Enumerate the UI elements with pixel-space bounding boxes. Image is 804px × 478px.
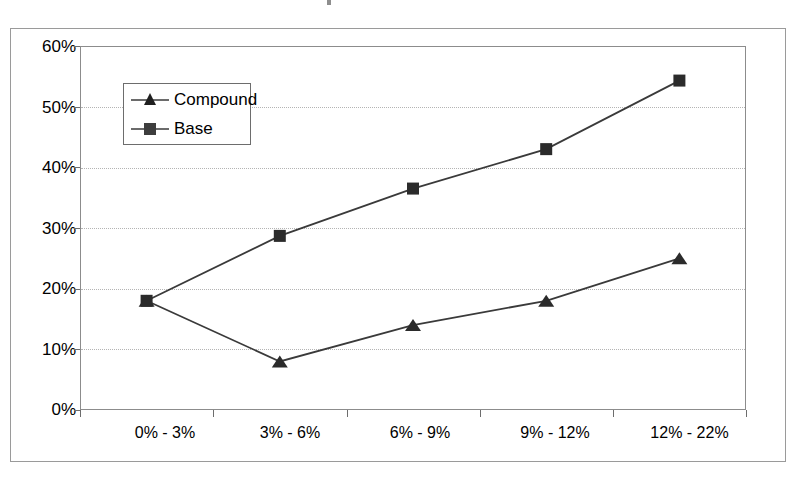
gridline-20 [81,289,745,290]
x-tick-mark-3 [480,410,481,417]
y-tick-label-40: 40% [42,159,76,176]
y-tick-label-10: 10% [42,341,76,358]
x-tick-mark-1 [213,410,214,417]
chart-container: 60% 50% 40% 30% 20% 10% 0% 0% - 3% 3% - … [0,0,804,478]
legend-label-compound: Compound [174,90,257,109]
legend-row-base: Base [124,114,250,144]
chart-legend: Compound Base [123,83,251,145]
x-tick-label-0: 0% - 3% [110,424,220,442]
gridline-30 [81,228,745,229]
y-tick-label-30: 30% [42,220,76,237]
legend-row-compound: Compound [124,85,250,115]
x-tick-label-3: 9% - 12% [495,424,615,442]
y-tick-label-0: 0% [51,401,76,418]
gridline-40 [81,168,745,169]
x-tick-label-4: 12% - 22% [627,424,752,442]
x-tick-mark-0 [80,410,81,417]
square-marker-icon [129,114,171,144]
triangle-marker-icon [129,85,171,115]
y-tick-label-50: 50% [42,99,76,116]
x-tick-mark-2 [347,410,348,417]
x-tick-label-1: 3% - 6% [235,424,345,442]
y-tick-label-60: 60% [42,38,76,55]
x-tick-mark-4 [613,410,614,417]
y-tick-label-20: 20% [42,280,76,297]
x-tick-label-2: 6% - 9% [365,424,475,442]
clipped-chart-title [327,0,331,5]
legend-label-base: Base [174,119,213,138]
x-tick-mark-5 [746,410,747,417]
gridline-10 [81,349,745,350]
